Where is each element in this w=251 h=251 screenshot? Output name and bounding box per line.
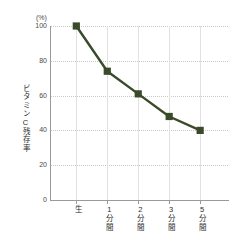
x-axis-tick <box>169 201 170 204</box>
x-axis-category-label: 1分間 <box>102 205 113 231</box>
gridline-vertical <box>76 26 77 200</box>
gridline-vertical <box>138 26 139 200</box>
y-axis-tick-label: 80 <box>39 57 47 64</box>
x-axis-category-label: 2分間 <box>133 205 144 231</box>
y-axis-tick-label: 20 <box>39 161 47 168</box>
y-axis-line <box>50 26 51 201</box>
y-axis-tick-label: 40 <box>39 126 47 133</box>
y-axis-tick-label: 0 <box>43 196 47 203</box>
x-axis-tick <box>138 201 139 204</box>
x-axis-tick <box>200 201 201 204</box>
x-axis-tick <box>76 201 77 204</box>
x-axis-category-label: 5分間 <box>195 205 206 231</box>
y-axis-tick-label: 60 <box>39 92 47 99</box>
vitamin-c-retention-line-chart: (%) ビタミンC残存率 020406080100 生1分間2分間3分間5分間 <box>0 0 251 251</box>
gridline-vertical <box>107 26 108 200</box>
x-axis-category-label: 生 <box>71 205 82 213</box>
y-axis-tick-label: 100 <box>35 22 47 29</box>
y-axis-tick-labels: 020406080100 <box>20 0 47 251</box>
x-axis-tick <box>107 201 108 204</box>
plot-area <box>50 26 228 200</box>
gridline-vertical <box>169 26 170 200</box>
x-axis-category-label: 3分間 <box>164 205 175 231</box>
gridline-vertical <box>200 26 201 200</box>
